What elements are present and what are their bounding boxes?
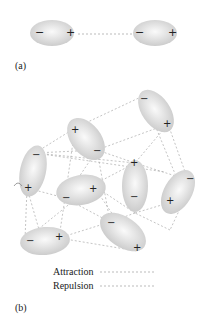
molecule bbox=[131, 83, 181, 138]
positive-charge: + bbox=[166, 196, 174, 206]
negative-charge: − bbox=[62, 193, 70, 203]
molecule bbox=[93, 205, 153, 259]
negative-charge: − bbox=[93, 146, 101, 156]
negative-charge: − bbox=[140, 94, 148, 104]
molecule bbox=[154, 164, 202, 220]
molecule bbox=[59, 111, 112, 167]
positive-charge: + bbox=[133, 243, 141, 253]
positive-charge: + bbox=[130, 158, 138, 168]
molecule bbox=[54, 171, 108, 209]
negative-charge: − bbox=[32, 150, 40, 160]
negative-charge: − bbox=[130, 192, 138, 202]
positive-charge: + bbox=[66, 27, 75, 38]
positive-charge: + bbox=[168, 27, 177, 38]
panel-a bbox=[30, 20, 177, 46]
panel-a-label: (a) bbox=[15, 60, 26, 71]
panel-b-label: (b) bbox=[15, 302, 27, 313]
positive-charge: + bbox=[71, 125, 79, 135]
negative-charge: − bbox=[107, 218, 115, 228]
positive-charge: + bbox=[24, 183, 32, 193]
positive-charge: + bbox=[89, 184, 97, 194]
negative-charge: − bbox=[35, 27, 44, 38]
legend-attraction-label: Attraction bbox=[53, 266, 94, 277]
legend-repulsion-label: Repulsion bbox=[53, 280, 94, 291]
negative-charge: − bbox=[186, 174, 194, 184]
positive-charge: + bbox=[55, 232, 63, 242]
positive-charge: + bbox=[163, 119, 171, 129]
negative-charge: − bbox=[135, 27, 144, 38]
negative-charge: − bbox=[26, 236, 34, 246]
